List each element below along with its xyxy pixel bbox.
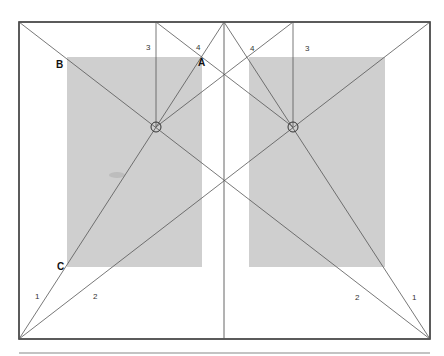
- label-c: C: [57, 261, 64, 272]
- label-2: 2: [355, 293, 360, 302]
- page-canon-diagram: BAC34431221: [0, 0, 444, 356]
- label-3: 3: [305, 44, 310, 53]
- label-4: 4: [250, 44, 255, 53]
- label-1: 1: [412, 293, 417, 302]
- label-b: B: [56, 59, 63, 70]
- text-block-left: [67, 57, 202, 267]
- label-1: 1: [35, 292, 40, 301]
- smudge-mark: [109, 172, 125, 178]
- text-blocks: [67, 57, 385, 267]
- label-a: A: [198, 57, 205, 68]
- label-3: 3: [146, 43, 151, 52]
- label-2: 2: [93, 292, 98, 301]
- text-block-right: [249, 57, 385, 267]
- label-4: 4: [196, 43, 201, 52]
